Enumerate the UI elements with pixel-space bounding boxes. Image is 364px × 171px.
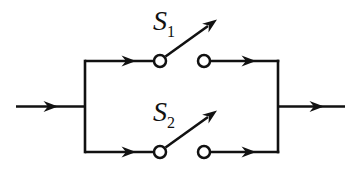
contact-terminal-right-icon	[198, 55, 210, 67]
switch-label-base: S	[153, 96, 167, 127]
parallel-switch-circuit-svg: S1 S2	[0, 0, 364, 171]
switch-label-s2: S2	[153, 96, 175, 131]
contact-terminal-left-icon	[154, 146, 166, 158]
switch-branch-s2: S2	[85, 96, 279, 158]
input-wire	[16, 101, 85, 112]
switch-label-subscript: 2	[167, 114, 175, 131]
contact-terminal-right-icon	[198, 146, 210, 158]
switch-label-base: S	[153, 5, 167, 36]
output-wire	[278, 101, 345, 112]
switch-label-s1: S1	[153, 5, 175, 40]
switch-label-subscript: 1	[167, 23, 175, 40]
circuit-diagram: S1 S2	[0, 0, 364, 171]
switch-branch-s1: S1	[85, 5, 279, 67]
contact-terminal-left-icon	[154, 55, 166, 67]
